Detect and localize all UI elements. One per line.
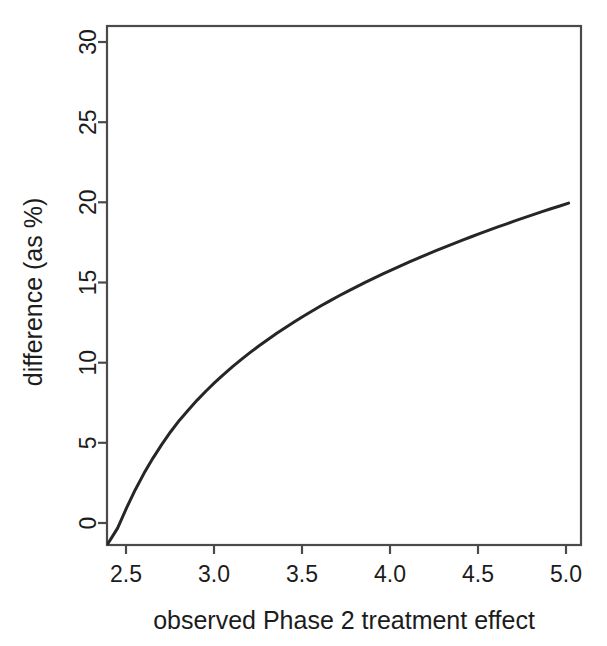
x-axis-title: observed Phase 2 treatment effect	[153, 606, 535, 634]
x-axis-tick-labels: 2.5 3.0 3.5 4.0 4.5 5.0	[110, 561, 582, 587]
y-tick-label: 10	[75, 350, 101, 376]
x-tick-label: 2.5	[110, 561, 142, 587]
y-tick-label: 30	[75, 29, 101, 55]
y-tick-label: 0	[75, 517, 101, 530]
y-axis-tick-labels: 0 5 10 15 20 25 30	[75, 29, 101, 529]
x-tick-label: 5.0	[550, 561, 582, 587]
x-tick-label: 3.0	[198, 561, 230, 587]
plot-panel	[107, 26, 581, 545]
y-tick-label: 15	[75, 270, 101, 296]
y-tick-label: 20	[75, 190, 101, 216]
x-tick-label: 3.5	[286, 561, 318, 587]
y-axis-title: difference (as %)	[19, 198, 47, 387]
plot-canvas: 0 5 10 15 20 25 30 2.5 3.0 3.5 4.0 4.5 5…	[0, 0, 607, 646]
chart-figure: 0 5 10 15 20 25 30 2.5 3.0 3.5 4.0 4.5 5…	[0, 0, 607, 646]
y-tick-label: 25	[75, 109, 101, 135]
x-axis-ticks	[126, 545, 566, 554]
y-tick-label: 5	[75, 436, 101, 449]
x-tick-label: 4.5	[462, 561, 494, 587]
x-tick-label: 4.0	[374, 561, 406, 587]
